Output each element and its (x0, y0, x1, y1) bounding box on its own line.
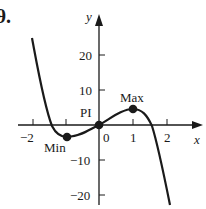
cubic-graph (0, 0, 206, 209)
tick-label-x-2: 2 (164, 131, 171, 144)
tick-label-x-neg2: −2 (20, 131, 34, 144)
tick-label-y-neg20: −20 (70, 189, 90, 202)
y-axis-arrow-icon (95, 14, 103, 26)
min-label: Min (44, 141, 66, 154)
pi-label: PI (80, 106, 92, 119)
inflection-point (95, 121, 104, 130)
tick-label-y-neg10: −10 (70, 154, 90, 167)
x-axis-label: x (194, 133, 200, 146)
tick-label-y-10: 10 (79, 84, 92, 97)
x-axis-arrow-icon (192, 121, 203, 129)
tick-label-x-1: 1 (130, 131, 137, 144)
tick-label-y-20: 20 (79, 49, 92, 62)
y-axis-label: y (86, 10, 92, 23)
max-label: Max (120, 91, 144, 104)
max-point (129, 105, 138, 114)
tick-label-x-0: 0 (103, 131, 110, 144)
